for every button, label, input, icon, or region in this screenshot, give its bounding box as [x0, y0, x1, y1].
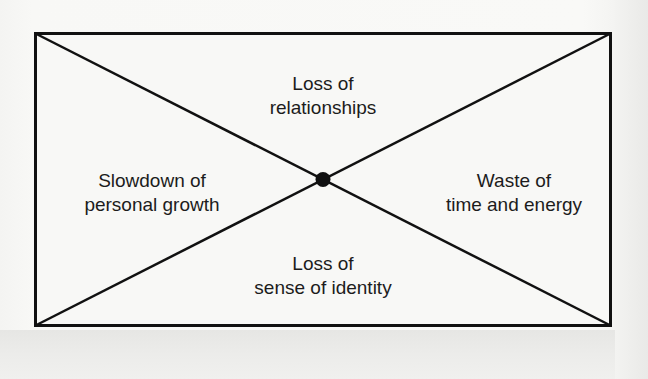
- quadrant-label-top: Loss of relationships: [223, 72, 423, 120]
- quadrant-top-line1: Loss of: [223, 72, 423, 96]
- page-bottom-shadow: [0, 330, 648, 379]
- quadrant-top-line2: relationships: [223, 96, 423, 120]
- quadrant-right-line1: Waste of: [424, 169, 604, 193]
- center-dot-icon: [316, 172, 331, 187]
- quadrant-bottom-line2: sense of identity: [223, 276, 423, 300]
- quadrant-label-bottom: Loss of sense of identity: [223, 252, 423, 300]
- quadrant-left-line1: Slowdown of: [62, 169, 242, 193]
- quadrant-label-left: Slowdown of personal growth: [62, 169, 242, 217]
- quadrant-label-right: Waste of time and energy: [424, 169, 604, 217]
- page-right-shadow: [615, 0, 648, 379]
- quadrant-left-line2: personal growth: [62, 193, 242, 217]
- quadrant-bottom-line1: Loss of: [223, 252, 423, 276]
- quadrant-right-line2: time and energy: [424, 193, 604, 217]
- quadrant-diagram: Loss of relationships Slowdown of person…: [34, 32, 612, 327]
